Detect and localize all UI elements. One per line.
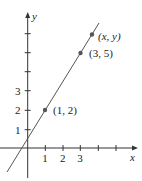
linear-function-line	[7, 23, 99, 172]
point-label-1-2: (1, 2)	[53, 104, 77, 117]
y-tick-3: 3	[15, 85, 21, 97]
x-tick-2: 2	[60, 152, 66, 164]
point-x-y	[90, 32, 94, 36]
point-3-5	[78, 51, 82, 55]
y-tick-2: 2	[15, 104, 21, 116]
point-1-2	[43, 108, 47, 112]
point-label-x-y: (x, y)	[98, 30, 121, 43]
x-tick-3: 3	[77, 152, 83, 164]
y-axis	[25, 12, 31, 178]
x-tick-1: 1	[42, 152, 48, 164]
y-axis-arrow-icon	[25, 12, 30, 18]
x-axis-arrow-icon	[132, 146, 138, 151]
y-axis-label: y	[31, 10, 37, 22]
y-tick-1: 1	[15, 124, 21, 136]
point-label-3-5: (3, 5)	[89, 47, 113, 60]
line-diagram: y x 1 2 3 1 2 3 (1, 2) (3, 5) (x, y)	[0, 0, 142, 181]
x-axis-label: x	[129, 151, 135, 163]
